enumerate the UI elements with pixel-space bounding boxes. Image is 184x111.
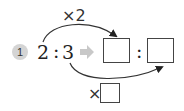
ratio-right-separator: : xyxy=(136,41,142,61)
answer-box-b[interactable] xyxy=(147,38,174,63)
ratio-left-separator: : xyxy=(53,41,59,61)
ratio-left-a: 2 xyxy=(37,42,49,62)
answer-box-a[interactable] xyxy=(103,38,130,63)
multiplier-answer-box[interactable] xyxy=(100,83,120,103)
ratio-left-b: 3 xyxy=(62,42,74,62)
problem-number-badge: 1 xyxy=(12,44,28,60)
top-multiplier-label: ×2 xyxy=(62,6,86,25)
right-arrow-icon xyxy=(80,45,94,59)
